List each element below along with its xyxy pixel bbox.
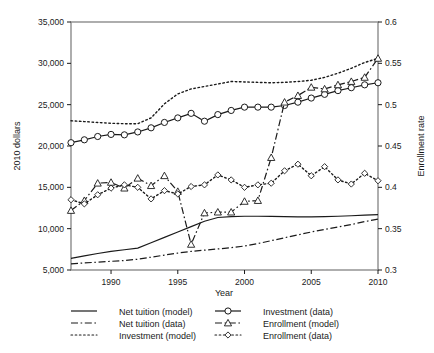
- legend-marker-circle: [225, 308, 231, 314]
- data-point-circle: [95, 133, 101, 139]
- y-tick-label: 35,000: [38, 17, 64, 27]
- data-point-circle: [215, 111, 221, 117]
- y-axis-title: 2010 dollars: [12, 121, 22, 171]
- data-point-circle: [308, 95, 314, 101]
- x-tick-label: 2000: [235, 277, 254, 287]
- y-tick-label: 25,000: [38, 100, 64, 110]
- x-tick-label: 1990: [102, 277, 121, 287]
- x-axis-title: Year: [215, 288, 233, 298]
- data-point-circle: [201, 118, 207, 124]
- data-point-circle: [135, 129, 141, 135]
- data-point-circle: [268, 104, 274, 110]
- data-point-circle: [295, 99, 301, 105]
- legend-label: Enrollment (data): [263, 331, 332, 341]
- y-tick-label: 5,000: [43, 265, 65, 275]
- data-point-circle: [161, 119, 167, 125]
- data-point-circle: [348, 85, 354, 91]
- data-point-circle: [81, 137, 87, 143]
- y2-tick-label: 0.6: [385, 17, 397, 27]
- data-point-circle: [68, 140, 74, 146]
- data-point-circle: [241, 104, 247, 110]
- x-tick-label: 1995: [168, 277, 187, 287]
- y-tick-label: 10,000: [38, 224, 64, 234]
- data-point-circle: [108, 131, 114, 137]
- data-point-circle: [255, 104, 261, 110]
- y2-tick-label: 0.3: [385, 265, 397, 275]
- data-point-circle: [335, 88, 341, 94]
- legend-label: Net tuition (data): [119, 319, 186, 329]
- data-point-circle: [362, 82, 368, 88]
- y-tick-label: 20,000: [38, 141, 64, 151]
- data-point-circle: [375, 80, 381, 86]
- legend-label: Investment (model): [119, 331, 196, 341]
- x-tick-label: 2010: [369, 277, 388, 287]
- y-tick-label: 30,000: [38, 58, 64, 68]
- data-point-circle: [121, 132, 127, 138]
- legend-label: Investment (data): [263, 307, 333, 317]
- y-tick-label: 15,000: [38, 182, 64, 192]
- y2-tick-label: 0.55: [385, 58, 402, 68]
- legend-label: Enrollment (model): [263, 319, 339, 329]
- data-point-circle: [148, 125, 154, 131]
- legend-label: Net tuition (model): [119, 307, 193, 317]
- y2-tick-label: 0.45: [385, 141, 402, 151]
- data-point-circle: [175, 115, 181, 121]
- y2-axis-title: Enrollment rate: [416, 115, 426, 176]
- chart-figure: 2010 dollars Enrollment rate Year 5,0001…: [0, 0, 434, 353]
- y2-tick-label: 0.5: [385, 100, 397, 110]
- y2-tick-label: 0.35: [385, 224, 402, 234]
- x-tick-label: 2005: [302, 277, 321, 287]
- y2-tick-label: 0.4: [385, 182, 397, 192]
- data-point-circle: [188, 110, 194, 116]
- data-point-circle: [228, 107, 234, 113]
